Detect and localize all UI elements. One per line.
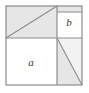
area-diagram-svg: a b xyxy=(0,0,89,93)
region-top-right-strip-fill xyxy=(57,6,82,12)
geometric-figure: a b xyxy=(0,0,89,93)
label-a: a xyxy=(28,56,34,68)
label-b: b xyxy=(66,16,72,28)
